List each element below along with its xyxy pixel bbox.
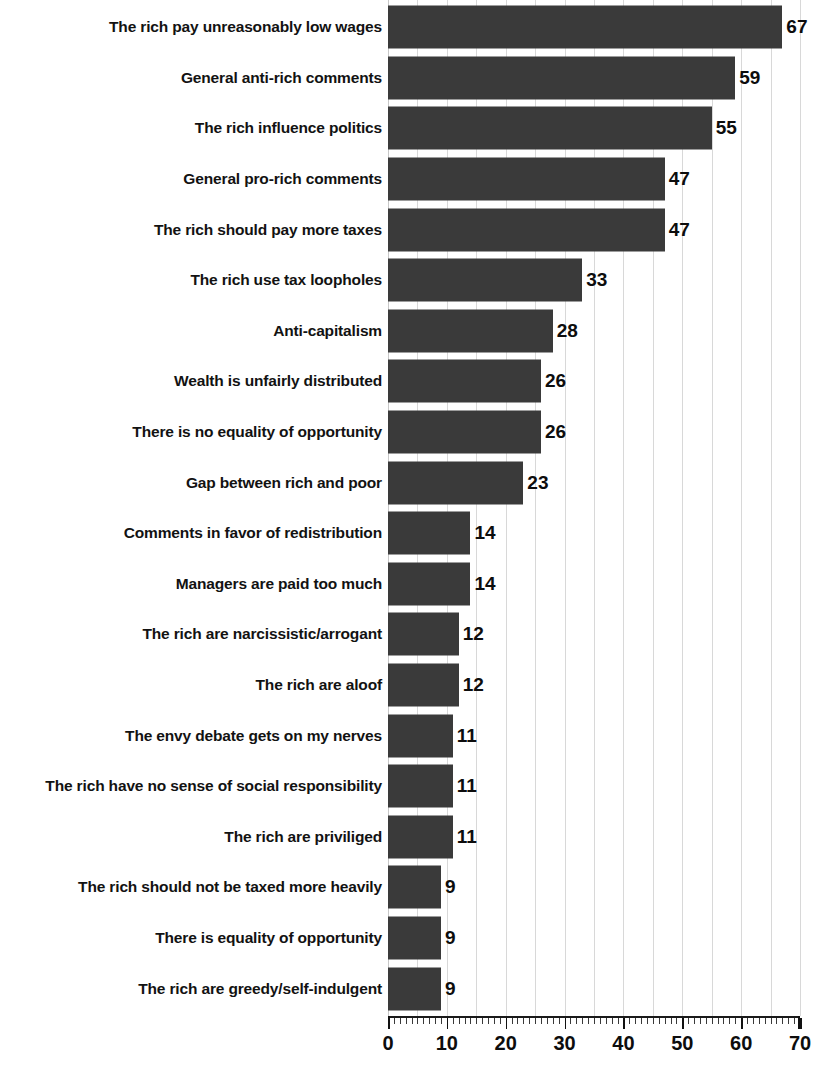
bar-row[interactable]: There is no equality of opportunity26 bbox=[0, 407, 826, 458]
bar[interactable] bbox=[388, 259, 582, 302]
bar-row[interactable]: The rich use tax loopholes33 bbox=[0, 255, 826, 306]
bar-row[interactable]: The rich are greedy/self-indulgent9 bbox=[0, 963, 826, 1014]
tick-minor-7 bbox=[429, 1018, 430, 1024]
tick-minor-9 bbox=[441, 1018, 442, 1024]
category-label: The rich are aloof bbox=[256, 676, 383, 694]
bar[interactable] bbox=[388, 360, 541, 403]
bar-row[interactable]: The rich pay unreasonably low wages67 bbox=[0, 2, 826, 53]
tick-minor-13 bbox=[465, 1018, 466, 1024]
bar[interactable] bbox=[388, 411, 541, 454]
bar-row[interactable]: The rich should pay more taxes47 bbox=[0, 204, 826, 255]
bar-value-label: 59 bbox=[739, 67, 760, 89]
bar-row[interactable]: The rich influence politics55 bbox=[0, 103, 826, 154]
bar-value-label: 67 bbox=[786, 16, 807, 38]
tick-minor-69 bbox=[794, 1018, 795, 1024]
tick-major-50 bbox=[682, 1018, 684, 1029]
bar-value-label: 47 bbox=[669, 168, 690, 190]
tick-minor-6 bbox=[423, 1018, 424, 1024]
tick-minor-17 bbox=[488, 1018, 489, 1024]
tick-major-70 bbox=[800, 1018, 802, 1029]
bar[interactable] bbox=[388, 613, 459, 656]
x-tick-label-70: 70 bbox=[789, 1032, 811, 1055]
bar[interactable] bbox=[388, 309, 553, 352]
tick-minor-3 bbox=[406, 1018, 407, 1024]
bar-row[interactable]: The envy debate gets on my nerves11 bbox=[0, 710, 826, 761]
x-tick-label-60: 60 bbox=[730, 1032, 752, 1055]
bar[interactable] bbox=[388, 107, 712, 150]
bar-row[interactable]: General anti-rich comments59 bbox=[0, 53, 826, 104]
tick-minor-25 bbox=[535, 1018, 536, 1024]
tick-minor-15 bbox=[476, 1018, 477, 1024]
bar-row[interactable]: Gap between rich and poor23 bbox=[0, 457, 826, 508]
tick-minor-52 bbox=[694, 1018, 695, 1024]
tick-minor-14 bbox=[470, 1018, 471, 1024]
tick-minor-62 bbox=[753, 1018, 754, 1024]
bar[interactable] bbox=[388, 512, 470, 555]
bar[interactable] bbox=[388, 917, 441, 960]
bar[interactable] bbox=[388, 714, 453, 757]
bar-value-label: 26 bbox=[545, 421, 566, 443]
bar-row[interactable]: There is equality of opportunity9 bbox=[0, 913, 826, 964]
tick-minor-5 bbox=[417, 1018, 418, 1024]
bar-row[interactable]: General pro-rich comments47 bbox=[0, 154, 826, 205]
category-label: The rich are priviliged bbox=[224, 828, 382, 846]
bar[interactable] bbox=[388, 664, 459, 707]
bar[interactable] bbox=[388, 967, 441, 1010]
bar[interactable] bbox=[388, 208, 665, 251]
tick-minor-44 bbox=[647, 1018, 648, 1024]
bar-value-label: 26 bbox=[545, 370, 566, 392]
x-tick-label-10: 10 bbox=[436, 1032, 458, 1055]
bar-value-label: 12 bbox=[463, 623, 484, 645]
bar-value-label: 11 bbox=[457, 725, 477, 747]
bar-row[interactable]: Wealth is unfairly distributed26 bbox=[0, 356, 826, 407]
bar-value-label: 55 bbox=[716, 117, 737, 139]
category-label: The rich are greedy/self-indulgent bbox=[138, 980, 382, 998]
tick-minor-26 bbox=[541, 1018, 542, 1024]
bar-value-label: 23 bbox=[527, 472, 548, 494]
bar-rows-container: The rich pay unreasonably low wages67Gen… bbox=[0, 0, 826, 1016]
category-label: General pro-rich comments bbox=[183, 170, 382, 188]
bar-row[interactable]: Anti-capitalism28 bbox=[0, 306, 826, 357]
tick-minor-28 bbox=[553, 1018, 554, 1024]
bar[interactable] bbox=[388, 765, 453, 808]
tick-major-20 bbox=[506, 1018, 508, 1029]
x-tick-label-50: 50 bbox=[671, 1032, 693, 1055]
category-label: The rich use tax loopholes bbox=[190, 271, 382, 289]
bar-row[interactable]: Managers are paid too much14 bbox=[0, 559, 826, 610]
bar[interactable] bbox=[388, 866, 441, 909]
tick-minor-35 bbox=[594, 1018, 595, 1024]
tick-major-0 bbox=[388, 1018, 390, 1029]
bar[interactable] bbox=[388, 461, 523, 504]
tick-minor-64 bbox=[765, 1018, 766, 1024]
x-tick-label-20: 20 bbox=[495, 1032, 517, 1055]
category-label: Comments in favor of redistribution bbox=[124, 524, 382, 542]
tick-minor-37 bbox=[606, 1018, 607, 1024]
bar[interactable] bbox=[388, 815, 453, 858]
bar[interactable] bbox=[388, 56, 735, 99]
bar-row[interactable]: The rich should not be taxed more heavil… bbox=[0, 862, 826, 913]
bar[interactable] bbox=[388, 158, 665, 201]
bar-row[interactable]: Comments in favor of redistribution14 bbox=[0, 508, 826, 559]
tick-minor-66 bbox=[776, 1018, 777, 1024]
bar-row[interactable]: The rich are aloof12 bbox=[0, 660, 826, 711]
tick-minor-12 bbox=[459, 1018, 460, 1024]
tick-minor-68 bbox=[788, 1018, 789, 1024]
bar-row[interactable]: The rich have no sense of social respons… bbox=[0, 761, 826, 812]
footer-caption bbox=[8, 1074, 608, 1083]
bar[interactable] bbox=[388, 562, 470, 605]
tick-minor-34 bbox=[588, 1018, 589, 1024]
tick-minor-55 bbox=[712, 1018, 713, 1024]
bar[interactable] bbox=[388, 6, 782, 49]
bar-row[interactable]: The rich are narcissistic/arrogant12 bbox=[0, 609, 826, 660]
tick-minor-27 bbox=[547, 1018, 548, 1024]
tick-minor-58 bbox=[729, 1018, 730, 1024]
category-label: Wealth is unfairly distributed bbox=[174, 372, 382, 390]
bar-value-label: 33 bbox=[586, 269, 607, 291]
tick-minor-36 bbox=[600, 1018, 601, 1024]
bar-value-label: 12 bbox=[463, 674, 484, 696]
tick-minor-43 bbox=[641, 1018, 642, 1024]
bar-row[interactable]: The rich are priviliged11 bbox=[0, 812, 826, 863]
tick-minor-1 bbox=[394, 1018, 395, 1024]
tick-minor-31 bbox=[570, 1018, 571, 1024]
tick-minor-22 bbox=[517, 1018, 518, 1024]
